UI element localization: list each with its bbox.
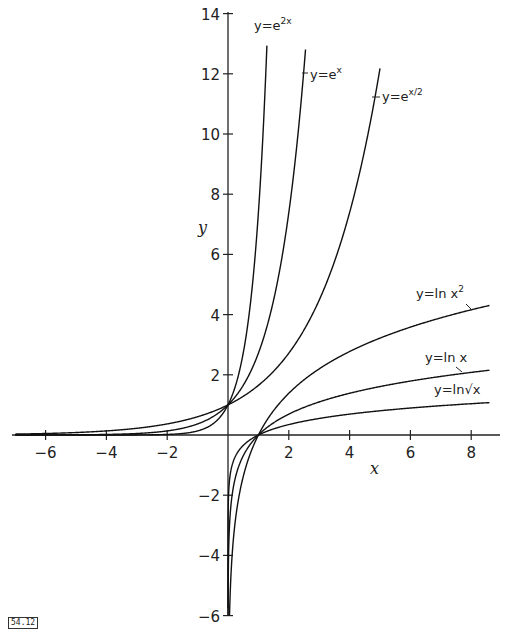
axes <box>12 12 500 615</box>
label-exp-half: y=ex/2 <box>382 87 423 104</box>
curve-5 <box>228 403 489 609</box>
y-tick-label: 2 <box>210 367 220 385</box>
label-exp-2x: y=e2x <box>254 16 292 33</box>
y-tick-label: −6 <box>198 608 220 626</box>
leader-ln-x <box>456 367 462 372</box>
x-tick-label: −4 <box>95 444 117 462</box>
curve-2 <box>15 68 380 434</box>
y-tick-label: 10 <box>201 126 220 144</box>
y-tick-label: 12 <box>201 66 220 84</box>
x-tick-label: 2 <box>284 444 294 462</box>
y-tick-label: −4 <box>198 547 220 565</box>
label-exp-x: y=ex <box>310 65 343 82</box>
label-ln-sqrt-x: y=ln√x <box>434 382 481 397</box>
x-tick-label: 8 <box>466 444 476 462</box>
y-tick-label: 8 <box>210 186 220 204</box>
x-tick-label: 6 <box>406 444 416 462</box>
x-axis-label: x <box>370 459 379 478</box>
y-axis-label: y <box>197 218 208 237</box>
curve-1 <box>15 50 305 435</box>
y-tick-label: 4 <box>210 307 220 325</box>
x-tick-label: −6 <box>35 444 57 462</box>
leader-ln-x2 <box>466 304 472 310</box>
label-ln-x2: y=ln x2 <box>416 284 464 301</box>
curve-4 <box>228 370 489 615</box>
y-tick-label: 6 <box>210 246 220 264</box>
label-ln-x: y=ln x <box>425 350 468 365</box>
x-tick-label: 4 <box>345 444 355 462</box>
curves <box>15 46 489 616</box>
figure-number-badge: 54.12 <box>8 617 38 629</box>
x-tick-label: −2 <box>156 444 178 462</box>
y-tick-label: −2 <box>198 487 220 505</box>
function-plot: −6−4−22468 −6−4−22468101214 x y y=e2x y=… <box>0 0 512 635</box>
y-tick-label: 14 <box>201 6 220 24</box>
curve-0 <box>15 46 267 435</box>
